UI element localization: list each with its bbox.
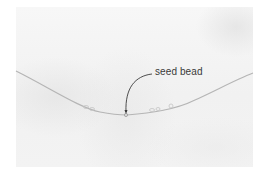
leader-arrowhead — [125, 110, 128, 114]
seed-bead-label: seed bead — [155, 66, 203, 77]
beading-wire — [16, 71, 253, 115]
leader-line — [126, 74, 152, 112]
wire-illustration — [0, 0, 267, 181]
